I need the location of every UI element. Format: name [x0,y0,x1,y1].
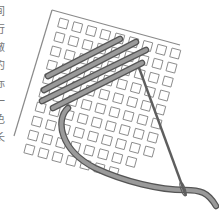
grid-square [126,156,137,167]
grid-square [52,152,63,163]
grid-square [84,145,95,156]
grid-square [170,48,181,59]
grid-square [68,36,79,47]
grid-square [99,89,110,100]
grid-square [105,121,116,132]
grid-square [82,40,93,51]
grid-square [116,79,127,90]
grid-square [137,114,148,125]
grid-square [143,146,154,157]
grid-square [119,125,130,136]
grid-square [112,153,123,164]
grid-square [101,135,112,146]
grid-square [28,130,39,141]
grid-square [86,26,97,37]
grid-square [31,116,42,127]
grid-square [87,131,98,142]
grid-square [166,62,177,73]
grid-square [42,134,53,145]
grid-square [129,142,140,153]
grid-square [130,83,141,94]
grid-square [73,127,84,138]
grid-square [38,148,49,159]
grid-square [50,46,61,57]
grid-square [72,22,83,33]
grid-square [148,72,159,83]
grid-square [115,139,126,150]
grid-square [147,132,158,143]
grid-square [64,50,75,61]
grid-square [77,113,88,124]
grid-square [158,90,169,101]
grid-square [152,58,163,69]
grid-square [162,76,173,87]
grid-square [109,107,120,118]
grid-square [133,128,144,139]
grid-square [123,111,134,122]
grid-square [113,93,124,104]
grid-square [100,29,111,40]
grid-square [24,144,35,155]
grid-square [98,149,109,160]
grid-square [141,100,152,111]
grid-square [95,103,106,114]
grid-square [127,97,138,108]
grid-square [156,44,167,55]
needlework-illustration [0,0,219,212]
grid-square [54,32,65,43]
grid-square [45,120,56,131]
grid-square [81,99,92,110]
grid-square [91,117,102,128]
grid-square [58,18,69,29]
